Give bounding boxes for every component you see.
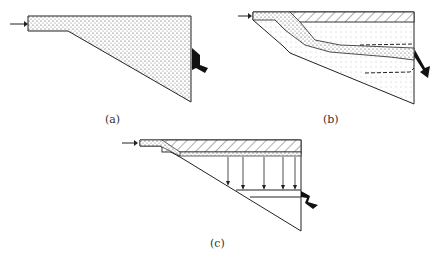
panel-b [238, 12, 430, 104]
caption-b: (b) [323, 113, 339, 126]
panel-c [122, 140, 318, 231]
diagram-canvas [0, 0, 443, 257]
panel-a [10, 16, 208, 102]
caption-c: (c) [210, 237, 225, 250]
outflow-arrow-icon [414, 50, 430, 78]
outflow-arrow-icon [301, 191, 318, 209]
caption-a: (a) [105, 113, 120, 126]
outflow-arrow-icon [192, 48, 208, 73]
